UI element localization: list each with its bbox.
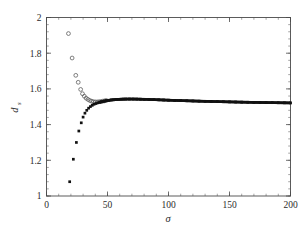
data-point-filled-square	[68, 180, 71, 183]
y-tick-label: 2	[37, 13, 42, 23]
x-axis-title: σ	[165, 213, 171, 224]
figure-container: 050100150200 11.21.41.61.82 σ d s	[0, 0, 305, 231]
data-point-filled-square	[72, 158, 75, 161]
y-tick-label: 1.8	[30, 49, 42, 59]
y-tick-label: 1.4	[30, 120, 42, 130]
x-tick-label: 0	[44, 200, 49, 210]
data-point-filled-square	[77, 130, 80, 133]
y-tick-label: 1.6	[30, 84, 42, 94]
data-point-filled-square	[80, 121, 83, 124]
x-tick-label: 200	[283, 200, 298, 210]
scatter-plot: 050100150200 11.21.41.61.82 σ d s	[0, 0, 305, 231]
y-tick-label: 1.2	[30, 156, 42, 166]
x-tick-label: 100	[161, 200, 176, 210]
y-tick-label: 1	[37, 191, 42, 201]
data-point-filled-square	[82, 116, 85, 119]
data-point-filled-square	[289, 102, 292, 105]
y-axis-title-subscript: s	[15, 102, 23, 105]
data-point-filled-square	[75, 141, 78, 144]
x-tick-label: 50	[103, 200, 113, 210]
y-axis-title-base: d	[9, 107, 20, 113]
data-point-filled-square	[84, 112, 87, 115]
x-tick-label: 150	[222, 200, 237, 210]
